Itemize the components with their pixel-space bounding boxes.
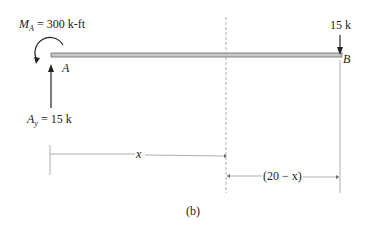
moment-label: MA = 300 k-ft — [19, 18, 85, 33]
dimension-arrowhead-icon — [336, 175, 339, 179]
point-a-label: A — [62, 62, 69, 74]
figure-caption: (b) — [186, 205, 200, 217]
load-b-label: 15 k — [330, 19, 351, 31]
reaction-value: = 15 k — [41, 112, 72, 126]
dimension-remaining-label: (20 − x) — [263, 170, 302, 182]
beam — [51, 53, 342, 57]
moment-value: = 300 k-ft — [37, 17, 85, 31]
point-b-label: B — [343, 53, 350, 65]
moment-arrowhead-icon — [34, 57, 40, 64]
reaction-subscript: y — [34, 119, 38, 128]
moment-symbol: M — [19, 17, 29, 31]
moment-subscript: A — [29, 24, 34, 33]
dimension-arrowhead-icon — [227, 174, 230, 178]
dimension-x-label: x — [136, 148, 141, 160]
reaction-arrowhead-icon — [48, 64, 54, 72]
reaction-label: Ay = 15 k — [27, 113, 72, 128]
dimension-arrowhead-icon — [224, 154, 227, 158]
dimension-line-x-right — [145, 155, 224, 156]
